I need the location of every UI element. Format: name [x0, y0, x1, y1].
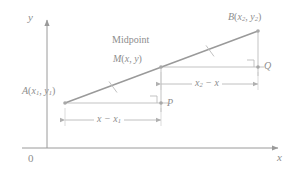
measure-upper-label: x2 − x — [192, 78, 222, 89]
point-a-dot — [63, 101, 67, 105]
point-m-dot — [159, 65, 163, 69]
point-p-name: P — [167, 97, 173, 108]
origin-label: 0 — [28, 153, 34, 164]
point-a-paren-close: ) — [52, 85, 55, 96]
y-axis-label: y — [28, 12, 33, 23]
point-b-paren-close: ) — [258, 11, 261, 22]
x-axis-label: x — [277, 152, 282, 163]
measure-lower-subtrahend-sub: 1 — [118, 117, 121, 124]
point-a-label: A(x1, y1) — [22, 86, 55, 97]
measure-lower-label: x − x1 — [94, 114, 124, 125]
point-m-label: M(x, y) — [113, 54, 142, 64]
point-p-label: P — [167, 98, 173, 108]
point-b-label: B(x2, y2) — [228, 12, 261, 23]
point-p-dot — [159, 101, 163, 105]
helper-lines — [65, 31, 264, 112]
point-b-dot — [256, 29, 260, 33]
point-m-paren-close: ) — [139, 53, 142, 64]
midpoint-caption: Midpoint — [112, 35, 149, 45]
midpoint-diagram-figure: y x 0 Midpoint A(x1, y1) B(x2, y2) M(x, … — [0, 0, 296, 180]
point-q-label: Q — [264, 61, 271, 71]
measure-lower-operator: − — [101, 113, 113, 124]
measure-upper-subtrahend: x — [215, 77, 219, 88]
point-q-name: Q — [264, 60, 271, 71]
point-q-dot — [256, 65, 260, 69]
measure-upper-operator: − — [203, 77, 215, 88]
